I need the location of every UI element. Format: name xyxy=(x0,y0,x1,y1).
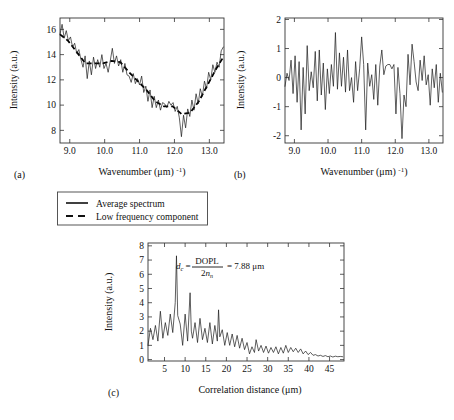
y-tick-label: 0 xyxy=(276,73,281,83)
panel-a-yaxis-title: Intensity (a.u.) xyxy=(8,51,20,110)
y-tick-label: 8 xyxy=(51,126,56,136)
panel-b-y-ticklabels: -2-1012 xyxy=(273,15,281,141)
y-tick-label: 2 xyxy=(139,326,144,336)
y-tick-label: -1 xyxy=(273,102,281,112)
panel-a: 9.010.011.012.013.0 810121416 Wavenumber… xyxy=(0,0,232,190)
annotation-numerator: DOPL xyxy=(195,256,219,266)
x-tick-label: 9.0 xyxy=(64,146,76,156)
panel-c-y-ticklabels: 012345678 xyxy=(139,241,144,365)
y-tick-label: 4 xyxy=(139,298,144,308)
panel-c-annotation: dc= DOPL 2nn = 7.88 μm xyxy=(176,256,264,279)
legend-label-low-frequency-component: Low frequency component xyxy=(96,212,199,222)
panel-c-x-ticklabels: 51015202530354045 xyxy=(162,364,334,374)
panel-c-label: (c) xyxy=(108,387,119,399)
x-tick-label: 30 xyxy=(263,364,273,374)
y-tick-label: 1 xyxy=(276,44,281,54)
panel-b-yaxis-title: Intensity (a.u.) xyxy=(235,51,247,110)
annotation-dc-symbol: dc= xyxy=(176,261,190,272)
panel-b-x-ticklabels: 9.010.011.012.013.0 xyxy=(288,146,437,156)
panel-b-residual-curve xyxy=(285,33,442,139)
x-tick-label: 40 xyxy=(304,364,314,374)
panel-a-plot: 9.010.011.012.013.0 810121416 xyxy=(47,18,225,156)
y-tick-label: 12 xyxy=(47,75,57,85)
x-tick-label: 10.0 xyxy=(320,146,337,156)
panel-c-xaxis-title: Correlation distance (μm) xyxy=(198,384,301,396)
legend-label-average-spectrum: Average spectrum xyxy=(96,199,165,209)
x-tick-label: 13.0 xyxy=(421,146,438,156)
x-tick-label: 13.0 xyxy=(201,146,218,156)
panel-c: 51015202530354045 012345678 dc= DOPL 2nn… xyxy=(100,235,360,420)
annotation-value: = 7.88 μm xyxy=(227,261,264,271)
x-tick-label: 25 xyxy=(242,364,252,374)
panel-b: 9.010.011.012.013.0 -2-1012 Wavenumber (… xyxy=(232,0,454,190)
x-tick-label: 15 xyxy=(201,364,211,374)
legend-svg: Average spectrum Low frequency component xyxy=(56,190,216,230)
panel-a-svg: 9.010.011.012.013.0 810121416 Wavenumber… xyxy=(0,0,232,190)
panel-a-xaxis-title: Wavenumber (μm) -1) xyxy=(98,166,185,179)
x-tick-label: 35 xyxy=(284,364,294,374)
panel-b-label: (b) xyxy=(234,169,246,181)
y-tick-label: 1 xyxy=(139,341,144,351)
y-tick-label: 5 xyxy=(139,284,144,294)
x-tick-label: 12.0 xyxy=(387,146,404,156)
panel-a-spectrum-curve xyxy=(60,24,223,136)
y-tick-label: 8 xyxy=(139,241,144,251)
panel-a-lowfreq-curve xyxy=(60,34,223,114)
y-tick-label: 7 xyxy=(139,255,144,265)
panel-a-x-ticklabels: 9.010.011.012.013.0 xyxy=(64,146,218,156)
y-tick-label: 14 xyxy=(47,50,57,60)
panel-b-plot: 9.010.011.012.013.0 -2-1012 xyxy=(273,15,443,156)
panel-c-yaxis-title: Intensity (a.u.) xyxy=(103,273,115,332)
y-tick-label: -2 xyxy=(273,131,281,141)
x-tick-label: 10.0 xyxy=(96,146,113,156)
y-tick-label: 2 xyxy=(276,15,281,25)
figure-legend: Average spectrum Low frequency component xyxy=(56,190,216,230)
y-tick-label: 3 xyxy=(139,312,144,322)
y-tick-label: 10 xyxy=(47,100,57,110)
x-tick-label: 11.0 xyxy=(354,146,371,156)
x-tick-label: 9.0 xyxy=(288,146,300,156)
x-tick-label: 11.0 xyxy=(131,146,148,156)
panel-b-svg: 9.010.011.012.013.0 -2-1012 Wavenumber (… xyxy=(232,0,454,190)
x-tick-label: 10 xyxy=(180,364,190,374)
panel-a-y-ticklabels: 810121416 xyxy=(47,25,57,136)
x-tick-label: 20 xyxy=(222,364,232,374)
y-tick-label: 6 xyxy=(139,270,144,280)
x-tick-label: 45 xyxy=(325,364,335,374)
annotation-denominator: 2nn xyxy=(201,268,213,279)
y-tick-label: 0 xyxy=(139,355,144,365)
y-tick-label: 16 xyxy=(47,25,57,35)
x-tick-label: 12.0 xyxy=(166,146,183,156)
panel-c-svg: 51015202530354045 012345678 dc= DOPL 2nn… xyxy=(100,235,360,420)
x-tick-label: 5 xyxy=(162,364,167,374)
panel-b-xaxis-title: Wavenumber (μm) -1) xyxy=(320,166,407,179)
panel-a-label: (a) xyxy=(14,169,25,181)
